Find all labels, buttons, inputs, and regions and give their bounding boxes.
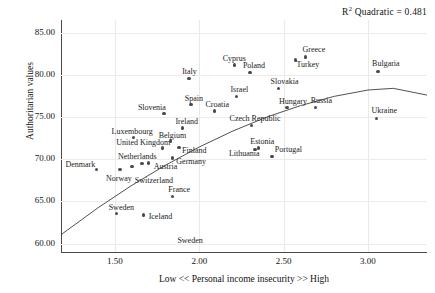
data-point-label: Hungary	[279, 98, 307, 106]
data-point-label: Ireland	[175, 118, 198, 126]
data-point-label: Netherlands	[118, 153, 157, 161]
data-point-label: Slovenia	[138, 104, 166, 112]
y-tick-label: 60.00	[0, 238, 55, 248]
data-point-label: Slovakia	[271, 78, 299, 86]
r-squared-value-text: Quadratic = 0.481	[352, 7, 427, 17]
data-point-label: Luxembourg	[112, 128, 153, 136]
data-point-label: Greece	[303, 46, 326, 54]
data-point[interactable]	[304, 55, 307, 58]
data-point[interactable]	[177, 146, 180, 149]
r-squared-annotation: R2 Quadratic = 0.481	[342, 5, 427, 17]
x-axis-title: Low << Personal income insecurity >> Hig…	[61, 274, 427, 284]
data-point-label: Switzerland	[135, 177, 173, 185]
data-point-label: Finland	[182, 147, 206, 155]
y-tick-label: 70.00	[0, 153, 55, 163]
data-point-label: Bulgaria	[372, 60, 400, 68]
data-point[interactable]	[140, 162, 143, 165]
data-point-label: Germany	[176, 158, 206, 166]
x-tick-label: 2.50	[254, 256, 314, 266]
data-point-label: Turkey	[296, 61, 319, 69]
data-point-label: Sweden	[109, 204, 134, 212]
data-point-label: Italy	[182, 68, 197, 76]
x-tick-label: 2.00	[169, 256, 229, 266]
data-point[interactable]	[375, 117, 378, 120]
data-point[interactable]	[181, 126, 184, 129]
data-point-label: Poland	[243, 62, 265, 70]
data-point-label: France	[168, 186, 190, 194]
plot-area: DenmarkNorwaySwitzerlandNetherlandsAustr…	[61, 20, 427, 252]
data-point-label: Sweden	[177, 237, 202, 245]
data-point-label: Israel	[230, 86, 248, 94]
y-tick-label: 65.00	[0, 195, 55, 205]
scatter-chart: R2 Quadratic = 0.481 Authoritarian value…	[0, 0, 435, 293]
data-point[interactable]	[376, 70, 379, 73]
data-point-label: Croatia	[205, 101, 229, 109]
data-point-label: Spain	[185, 95, 203, 103]
data-point[interactable]	[270, 155, 273, 158]
y-tick-label: 80.00	[0, 69, 55, 79]
y-tick-label: 85.00	[0, 27, 55, 37]
data-point-label: Norway	[106, 175, 132, 183]
data-point-label: Czech Republic	[230, 115, 281, 123]
x-tick-label: 1.50	[85, 256, 145, 266]
data-point-label: Russia	[311, 97, 332, 105]
x-axis-line	[61, 252, 427, 253]
data-point-label: Austria	[154, 163, 178, 171]
data-point[interactable]	[95, 168, 98, 171]
data-point-label: Iceland	[149, 213, 173, 221]
data-point-label: Estonia	[250, 138, 274, 146]
data-point-label: Belgium	[159, 132, 187, 140]
data-point[interactable]	[142, 213, 145, 216]
data-point[interactable]	[213, 109, 216, 112]
data-point[interactable]	[171, 156, 174, 159]
data-point-label: Lithuania	[229, 150, 260, 158]
data-point-label: Portugal	[275, 146, 302, 154]
y-tick-label: 75.00	[0, 111, 55, 121]
data-point[interactable]	[118, 168, 121, 171]
data-point-label: Ukraine	[371, 107, 397, 115]
x-tick-label: 3.00	[338, 256, 398, 266]
data-point-label: Denmark	[65, 161, 95, 169]
